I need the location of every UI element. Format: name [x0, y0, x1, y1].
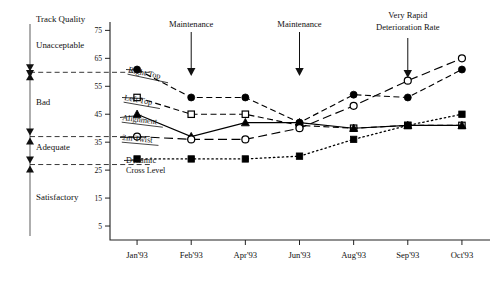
data-point-marker — [242, 111, 248, 117]
quality-band-unacceptable: Unacceptable — [36, 40, 84, 50]
x-tick-label-6: Oct'93 — [451, 250, 474, 260]
track-quality-chart: Track Quality Unacceptable Bad Adequate … — [0, 0, 496, 281]
annotations-group: MaintenanceMaintenanceVery RapidDeterior… — [169, 10, 440, 78]
x-tick-label-5: Sep'93 — [396, 250, 419, 260]
series-label-text: Cross Level — [126, 166, 166, 175]
quality-band-satisfactory: Satisfactory — [36, 192, 79, 202]
data-point-marker — [404, 94, 411, 101]
arrow-down-icon — [295, 68, 303, 76]
data-point-marker — [350, 102, 357, 109]
data-point-marker — [458, 66, 465, 73]
y-tick-label: 35 — [94, 138, 102, 147]
arrow-down-icon — [404, 70, 412, 78]
series-label-text: Right Top — [128, 65, 162, 81]
bracket-top-arrow-icon — [26, 70, 34, 78]
quality-band-adequate: Adequate — [36, 142, 70, 152]
x-tick-label-1: Feb'93 — [180, 250, 203, 260]
data-point-marker — [404, 77, 411, 84]
annotation-label-line1: Very Rapid — [388, 10, 428, 20]
axes-group: 515253545556575Jan'93Feb'93Apr'93Jun'93A… — [94, 22, 490, 260]
series-label-right-top: Right Top — [128, 65, 170, 83]
series-label-left-top: Left Top — [124, 93, 162, 108]
y-tick-label: 55 — [94, 82, 102, 91]
series-labels-group: Right TopLeft TopAlignment2m TwistDynami… — [120, 65, 170, 174]
x-tick-label-3: Jun'93 — [288, 250, 310, 260]
quality-band-bad: Bad — [36, 97, 51, 107]
y-tick-label: 5 — [98, 222, 102, 231]
data-point-marker — [242, 136, 249, 143]
data-point-marker — [188, 136, 195, 143]
data-point-marker — [188, 156, 194, 162]
annotation-label-1: Maintenance — [277, 19, 322, 29]
data-point-marker — [459, 111, 465, 117]
y-tick-label: 45 — [94, 110, 102, 119]
data-point-marker — [350, 136, 356, 142]
annotation-label-0: Maintenance — [169, 19, 214, 29]
y-tick-label: 75 — [94, 26, 102, 35]
band-arrow-up-icon — [26, 138, 34, 145]
data-point-marker — [188, 111, 194, 117]
data-point-marker — [188, 94, 195, 101]
band-arrow-down-icon — [26, 129, 34, 136]
y-tick-label: 15 — [94, 194, 102, 203]
y-tick-label: 25 — [94, 166, 102, 175]
data-point-marker — [242, 94, 249, 101]
data-point-marker — [296, 153, 302, 159]
series-line — [137, 70, 462, 123]
x-tick-label-2: Apr'93 — [234, 250, 258, 260]
x-tick-label-4: Aug'93 — [341, 250, 366, 260]
arrow-down-icon — [187, 68, 195, 76]
data-point-marker — [350, 91, 357, 98]
data-point-marker — [242, 156, 248, 162]
data-point-marker — [458, 55, 465, 62]
series-label-2m-twist: 2m Twist — [122, 133, 159, 145]
quality-scale-title: Track Quality — [36, 14, 86, 24]
y-tick-label: 65 — [94, 54, 102, 63]
series-label-alignment: Alignment — [122, 113, 164, 127]
annotation-label-line2: Deterioration Rate — [376, 22, 440, 32]
band-arrow-up-icon — [26, 166, 34, 173]
x-tick-label-0: Jan'93 — [126, 250, 148, 260]
series-label-leader — [124, 160, 142, 161]
data-point-marker — [405, 122, 411, 128]
band-arrow-down-icon — [26, 157, 34, 164]
data-point-marker — [296, 125, 303, 132]
chart-canvas: Track Quality Unacceptable Bad Adequate … — [0, 0, 496, 281]
